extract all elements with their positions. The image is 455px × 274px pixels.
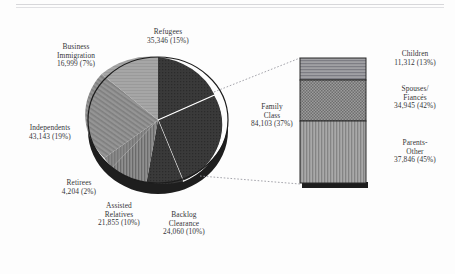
- label-backlog-clearance: Backlog Clearance 24,060 (10%): [146, 211, 222, 237]
- label-retirees: Retirees 4,204 (2%): [44, 179, 114, 196]
- figure-canvas: Refugees 35,346 (15%) Business Immigrati…: [0, 0, 455, 274]
- lower-leader-line: [200, 176, 300, 184]
- label-family-class: Family Class 84,103 (37%): [243, 103, 301, 129]
- upper-leader-line: [214, 58, 300, 92]
- label-assisted-relatives: Assisted Relatives 21,855 (10%): [83, 202, 155, 228]
- breakout-bar: [300, 58, 368, 188]
- bar-segment-spouses-fiances[interactable]: [300, 80, 366, 121]
- label-business-immigration: Business Immigration 16,999 (7%): [34, 43, 118, 69]
- bar-segment-children[interactable]: [300, 58, 366, 80]
- bar-segment-parents-other[interactable]: [300, 121, 366, 183]
- label-children: Children 11,312 (13%): [378, 50, 452, 67]
- label-refugees: Refugees 35,346 (15%): [126, 28, 210, 45]
- label-spouses-fiances: Spouses/ Fiancés 34,945 (42%): [378, 85, 452, 111]
- label-independents: Independents 43,143 (19%): [4, 124, 96, 141]
- label-parents-other: Parents- Other 37,846 (45%): [378, 139, 452, 165]
